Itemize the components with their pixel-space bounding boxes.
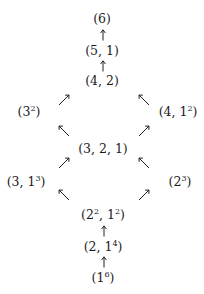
node-label-close: ) [40, 174, 45, 189]
arrow-up-icon [97, 29, 109, 41]
node-3-squared: (32) [18, 105, 41, 119]
node-1-sixth: (16) [92, 271, 115, 285]
node-label-close: ) [117, 239, 122, 254]
arrow-up-icon [98, 225, 110, 237]
node-label: (6) [93, 11, 111, 26]
node-label: (1 [92, 270, 105, 285]
node-label: (2 [169, 174, 182, 189]
node-label: (3, 1 [7, 174, 36, 189]
node-label: (4, 2) [85, 73, 119, 88]
arrow-up-icon [98, 256, 110, 268]
arrow-up-left-icon [58, 189, 70, 201]
node-6: (6) [93, 12, 111, 26]
node-label: (2 [81, 207, 94, 222]
node-label: (4, 1 [159, 104, 188, 119]
arrow-up-right-icon [58, 157, 70, 169]
node-label-close: ) [192, 104, 197, 119]
node-2-cubed: (23) [169, 175, 192, 189]
node-4-2: (4, 2) [85, 74, 119, 88]
node-label-close: ) [187, 174, 192, 189]
arrow-up-right-icon [58, 94, 70, 106]
arrow-up-icon [97, 60, 109, 72]
node-2-1-fourth: (2, 14) [84, 240, 123, 254]
arrow-up-right-icon [138, 125, 150, 137]
node-label-close: ) [36, 104, 41, 119]
node-label: (3 [18, 104, 31, 119]
node-label-mid: , 1 [99, 207, 115, 222]
arrow-up-left-icon [138, 94, 150, 106]
arrow-up-left-icon [138, 157, 150, 169]
node-label-close: ) [120, 207, 125, 222]
node-label: (3, 2, 1) [78, 141, 128, 156]
node-5-1: (5, 1) [85, 44, 119, 58]
arrow-up-right-icon [138, 189, 150, 201]
arrow-up-left-icon [58, 125, 70, 137]
node-label-close: ) [110, 270, 115, 285]
node-4-1-squared: (4, 12) [159, 105, 198, 119]
node-label: (2, 1 [84, 239, 113, 254]
node-label: (5, 1) [85, 43, 119, 58]
node-2-squared-1-squared: (22, 12) [81, 208, 125, 222]
node-3-2-1: (3, 2, 1) [78, 142, 128, 156]
node-3-1-cubed: (3, 13) [7, 175, 46, 189]
